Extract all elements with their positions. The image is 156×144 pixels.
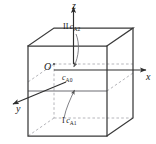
roman-numeral-one: I (62, 116, 65, 125)
annotation-arrow-ca1 (64, 90, 75, 118)
origin-label: O (44, 62, 51, 72)
axis-label-x: x (146, 72, 150, 82)
mid-plane-line (28, 73, 133, 91)
origin-marker (53, 63, 55, 65)
label-ca2: IIcA2 (63, 23, 80, 31)
cube-hidden-edges (28, 64, 133, 136)
diagram-canvas (0, 0, 156, 144)
label-ca1: IcA1 (62, 117, 77, 125)
annotation-arrow-ca2 (74, 34, 79, 67)
figure-container: z x y O IIcA2 cA0 IcA1 (0, 0, 156, 144)
axis-label-y: y (16, 104, 20, 114)
roman-numeral-two: II (63, 22, 68, 31)
label-ca0: cA0 (62, 74, 73, 82)
ca0-subscript: A0 (66, 77, 73, 83)
ca2-subscript: A2 (73, 26, 80, 32)
axis-label-z: z (72, 1, 76, 11)
ca1-subscript: A1 (70, 120, 77, 126)
axis-y (13, 82, 66, 104)
cube-visible-edges (28, 28, 133, 136)
